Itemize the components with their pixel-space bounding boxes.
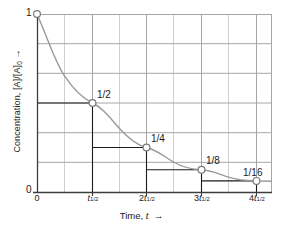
data-point-0 [34, 11, 41, 18]
x-axis-title-variable: t [146, 210, 149, 221]
data-label-one-half: 1/2 [97, 89, 111, 100]
x-tick-label-2t-half: 2t1/2 [132, 193, 162, 203]
decay-curve [37, 14, 272, 181]
x-axis-arrow-icon: → [154, 210, 164, 221]
data-label-one-quarter: 1/4 [151, 133, 165, 144]
x-tick-sub: 1/2 [90, 196, 98, 202]
data-point-half [89, 100, 96, 107]
y-axis-title-subscript: 0 [16, 61, 23, 65]
x-tick-label-3t-half: 3t1/2 [187, 193, 217, 203]
half-life-decay-chart: Concentration, [A]/[A]0 → Time, t → 1 0 … [0, 0, 283, 232]
x-tick-sub: 1/2 [147, 196, 155, 202]
data-point-sixteenth [253, 178, 260, 185]
y-axis-title: Concentration, [A]/[A]0 → [12, 26, 22, 176]
x-axis-title: Time, t → [0, 210, 283, 221]
x-tick-sub: 1/2 [202, 196, 210, 202]
x-tick-label-zero: 0 [30, 193, 44, 203]
axis-lines [33, 10, 272, 193]
x-tick-sub: 1/2 [257, 196, 265, 202]
x-tick-label-4t-half: 4t1/2 [242, 193, 272, 203]
y-axis-title-text: Concentration, [A]/[A] [12, 65, 22, 153]
y-axis-arrow-icon: → [12, 49, 22, 58]
y-tick-label-one: 1 [26, 8, 32, 18]
data-point-eighth [198, 166, 205, 173]
x-tick-label-t-half: t1/2 [80, 193, 106, 203]
data-label-one-sixteenth: 1/16 [243, 167, 262, 178]
x-axis-title-text: Time, [120, 210, 146, 221]
data-point-quarter [143, 144, 150, 151]
data-label-one-eighth: 1/8 [206, 155, 220, 166]
